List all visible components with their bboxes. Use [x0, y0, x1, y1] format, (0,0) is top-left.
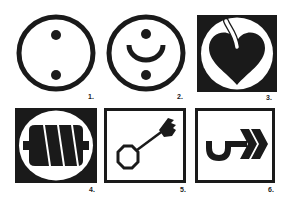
label-5: 5. [180, 186, 186, 193]
circle-smile-dots-icon [105, 13, 187, 93]
label-3: 3. [266, 94, 272, 101]
heart-with-stem-icon [197, 15, 277, 92]
symbol-2 [105, 13, 187, 93]
label-1: 1. [88, 93, 94, 100]
hook-arrow-icon [195, 108, 275, 183]
symbol-4 [15, 108, 97, 183]
symbol-6 [195, 108, 275, 183]
label-2: 2. [177, 93, 183, 100]
circle-two-dots-icon [15, 13, 97, 93]
symbol-1 [15, 13, 97, 93]
label-6: 6. [268, 186, 274, 193]
symbol-3 [197, 15, 277, 92]
symbol-5 [104, 108, 186, 183]
key-icon [104, 108, 186, 183]
twisted-roll-icon [15, 108, 97, 183]
label-4: 4. [89, 186, 95, 193]
